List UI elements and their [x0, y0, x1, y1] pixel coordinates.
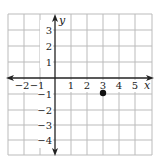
x-tick-label: 5 — [132, 80, 138, 91]
x-axis-label: x — [144, 79, 151, 92]
y-axis-label: y — [58, 14, 66, 27]
y-tick-label: −2 — [37, 105, 52, 116]
data-point — [100, 90, 106, 96]
y-tick-label: 2 — [46, 41, 52, 52]
y-tick-label: −3 — [37, 120, 52, 131]
y-tick-label: −4 — [37, 135, 52, 146]
x-tick-label: 2 — [84, 80, 90, 91]
coordinate-plane: −2 −1 1 2 3 4 5 x 3 2 1 −1 −2 −3 −4 y — [0, 0, 162, 162]
x-tick-label: 1 — [68, 80, 74, 91]
x-tick-label: −2 — [15, 80, 30, 91]
y-tick-label: 3 — [46, 25, 52, 36]
x-tick-label: 4 — [116, 80, 122, 91]
x-tick-label: 3 — [100, 80, 106, 91]
y-tick-label: 1 — [46, 57, 52, 68]
y-tick-label: −1 — [37, 89, 52, 100]
